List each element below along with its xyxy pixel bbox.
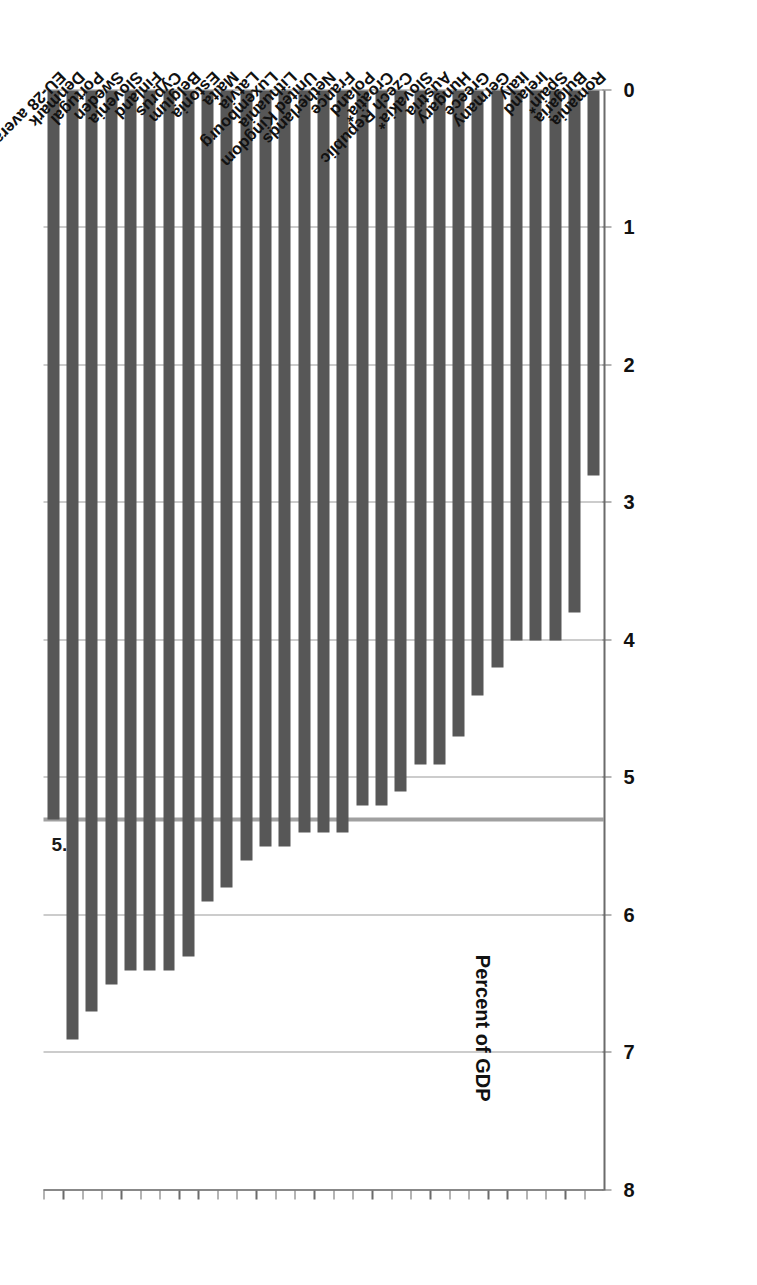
bar-row	[375, 90, 387, 1190]
bar-row	[298, 90, 310, 1190]
rotated-figure: 5.3 EU-28 averageDenmarkPortugalSwedenSl…	[0, 0, 757, 1285]
bar-row	[182, 90, 194, 1190]
bar-poland	[356, 90, 368, 805]
category-tick	[449, 1190, 450, 1199]
value-label-0: 0	[623, 79, 634, 102]
bar-row	[66, 90, 78, 1190]
bar-romania	[587, 90, 599, 475]
bar-row	[587, 90, 599, 1190]
value-tick-8	[602, 1189, 611, 1190]
value-label-6: 6	[623, 904, 634, 927]
bar-row	[568, 90, 580, 1190]
bar-hungary	[452, 90, 464, 736]
bar-row	[201, 90, 213, 1190]
bar-denmark	[66, 90, 78, 1039]
bar-netherlands	[317, 90, 329, 833]
category-tick	[410, 1190, 411, 1199]
bar-sweden	[105, 90, 117, 984]
value-label-5: 5	[623, 766, 634, 789]
bar-france	[336, 90, 348, 833]
bar-row	[220, 90, 232, 1190]
category-tick	[62, 1190, 63, 1199]
value-label-1: 1	[623, 216, 634, 239]
bar-eu-28-average	[47, 90, 59, 819]
category-tick	[178, 1190, 179, 1199]
category-tick	[506, 1190, 507, 1199]
value-tick-2	[602, 364, 611, 365]
value-tick-6	[602, 914, 611, 915]
category-tick	[564, 1190, 565, 1199]
bar-row	[394, 90, 406, 1190]
value-label-2: 2	[623, 354, 634, 377]
category-tick	[526, 1190, 527, 1199]
bar-row	[240, 90, 252, 1190]
bar-malta	[220, 90, 232, 888]
bar-slovenia	[124, 90, 136, 970]
bar-row	[549, 90, 561, 1190]
category-tick	[391, 1190, 392, 1199]
bar-spain	[549, 90, 561, 640]
value-axis-ticks: 012345678	[603, 0, 663, 1285]
category-tick	[255, 1190, 256, 1199]
bar-belgium	[182, 90, 194, 956]
bar-austria	[433, 90, 445, 764]
bar-row	[259, 90, 271, 1190]
value-label-4: 4	[623, 629, 634, 652]
category-tick	[275, 1190, 276, 1199]
category-tick	[159, 1190, 160, 1199]
bar-row	[336, 90, 348, 1190]
value-tick-7	[602, 1051, 611, 1052]
bar-italy	[510, 90, 522, 640]
bar-portugal	[85, 90, 97, 1011]
value-label-8: 8	[623, 1179, 634, 1202]
axis-title: Percent of GDP	[470, 954, 493, 1101]
bar-row	[105, 90, 117, 1190]
value-tick-1	[602, 226, 611, 227]
bar-row	[85, 90, 97, 1190]
bar-row	[124, 90, 136, 1190]
category-tick	[371, 1190, 372, 1199]
bar-croatia	[375, 90, 387, 805]
bar-slovakia	[414, 90, 426, 764]
bar-cyprus	[163, 90, 175, 970]
value-tick-3	[602, 501, 611, 502]
category-tick	[468, 1190, 469, 1199]
bar-row	[433, 90, 445, 1190]
bar-row	[317, 90, 329, 1190]
category-tick	[294, 1190, 295, 1199]
bar-row	[414, 90, 426, 1190]
bar-germany	[491, 90, 503, 668]
category-tick	[584, 1190, 585, 1199]
bar-lithuania	[278, 90, 290, 846]
bar-luxembourg	[259, 90, 271, 846]
category-tick	[197, 1190, 198, 1199]
value-tick-5	[602, 776, 611, 777]
bar-row	[452, 90, 464, 1190]
bar-estonia	[201, 90, 213, 901]
category-tick	[487, 1190, 488, 1199]
value-label-3: 3	[623, 491, 634, 514]
bar-row	[278, 90, 290, 1190]
category-tick	[313, 1190, 314, 1199]
bar-finland	[143, 90, 155, 970]
bar-row	[47, 90, 59, 1190]
category-tick	[333, 1190, 334, 1199]
bar-bulgaria	[568, 90, 580, 613]
bar-greece	[471, 90, 483, 695]
category-tick	[140, 1190, 141, 1199]
bar-united-kingdom	[298, 90, 310, 833]
value-tick-0	[602, 89, 611, 90]
bar-row	[356, 90, 368, 1190]
bar-czech-republic	[394, 90, 406, 791]
category-tick	[429, 1190, 430, 1199]
bar-ireland	[529, 90, 541, 640]
bar-row	[143, 90, 155, 1190]
plot-area: 5.3 EU-28 averageDenmarkPortugalSwedenSl…	[43, 90, 603, 1190]
category-tick	[101, 1190, 102, 1199]
value-tick-4	[602, 639, 611, 640]
category-tick	[352, 1190, 353, 1199]
category-tick	[82, 1190, 83, 1199]
bar-latvia	[240, 90, 252, 860]
category-tick	[545, 1190, 546, 1199]
category-tick	[120, 1190, 121, 1199]
